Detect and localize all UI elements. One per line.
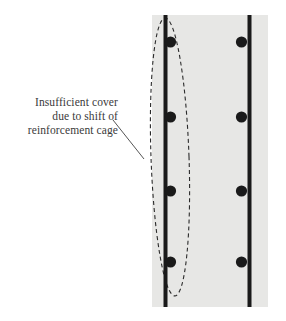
leader-line: [113, 120, 144, 159]
rebar-dot: [165, 256, 176, 267]
right-vertical-bar: [248, 15, 252, 307]
rebar-dot: [236, 111, 247, 122]
rebar-dot: [165, 185, 176, 196]
rebar-dot: [236, 36, 247, 47]
section-drawing: [0, 0, 286, 321]
reinforcement-cover-defect-diagram: Insufficient cover due to shift of reinf…: [0, 0, 286, 321]
rebar-dot: [236, 185, 247, 196]
rebar-dot: [165, 36, 176, 47]
rebar-dot: [165, 111, 176, 122]
rebar-dot: [236, 256, 247, 267]
